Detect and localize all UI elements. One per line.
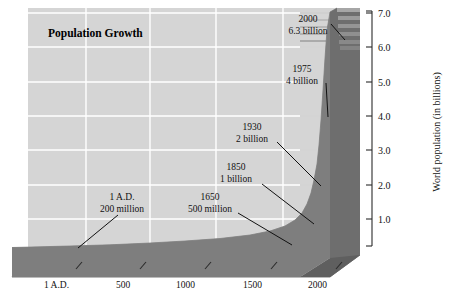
annotation-1650-value: 500 million <box>188 204 232 214</box>
annotation-1ad-year: 1 A.D. <box>109 192 134 202</box>
y-tick-label-6: 6.0 <box>378 42 391 53</box>
x-tick-label-1ad: 1 A.D. <box>44 280 69 290</box>
annotation-1930-value: 2 billion <box>236 134 268 144</box>
side-band-3 <box>338 24 360 28</box>
y-tick-label-2: 2.0 <box>378 180 391 191</box>
side-band-4 <box>339 32 360 36</box>
side-band-5 <box>339 40 360 44</box>
side-band-top <box>337 8 360 12</box>
annotation-2000-value: 6.3 billion <box>288 26 327 36</box>
y-tick-label-4: 4.0 <box>378 111 391 122</box>
y-tick-label-5: 5.0 <box>378 77 391 88</box>
side-band-2 <box>338 16 360 20</box>
population-growth-chart: 7.0 6.0 5.0 4.0 3.0 2.0 1.0 World popula… <box>0 0 449 302</box>
annotation-1975-value: 4 billion <box>286 76 318 86</box>
x-tick-label-1500: 1500 <box>243 280 262 290</box>
annotation-1930-year: 1930 <box>243 122 262 132</box>
chart-title: Population Growth <box>48 27 143 40</box>
y-tick-label-3: 3.0 <box>378 145 391 156</box>
x-tick-label-2000: 2000 <box>308 280 327 290</box>
x-tick-label-1000: 1000 <box>176 280 195 290</box>
annotation-1975-year: 1975 <box>293 64 312 74</box>
y-axis-title: World population (in billions) <box>431 72 443 191</box>
annotation-1ad-value: 200 million <box>100 204 144 214</box>
annotation-1850-value: 1 billion <box>220 174 252 184</box>
annotation-2000-year: 2000 <box>299 14 318 24</box>
x-tick-label-500: 500 <box>116 280 131 290</box>
y-tick-label-1: 1.0 <box>378 214 391 225</box>
side-band-6 <box>340 46 360 50</box>
annotation-1850-year: 1850 <box>227 162 246 172</box>
y-tick-label-7: 7.0 <box>378 8 391 19</box>
chart-container: 7.0 6.0 5.0 4.0 3.0 2.0 1.0 World popula… <box>0 0 449 302</box>
annotation-1650-year: 1650 <box>201 192 220 202</box>
